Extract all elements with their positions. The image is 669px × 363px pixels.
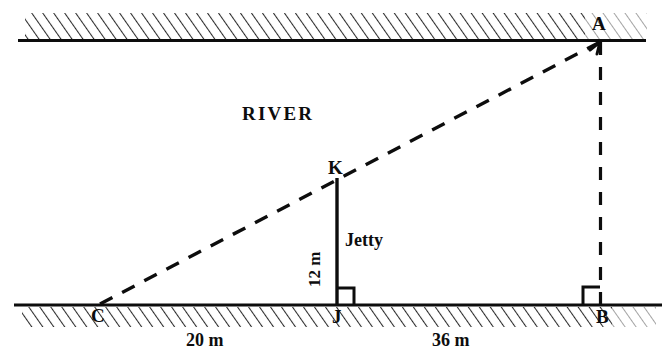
distance-label-jb: 36 m: [432, 331, 470, 349]
bottom-bank-hatching: [22, 307, 612, 327]
point-label-c: C: [91, 306, 105, 325]
river-jetty-diagram: RIVER A B C J K 12 m Jetty 20 m 36 m: [0, 0, 669, 363]
top-bank-hatching: [25, 13, 585, 40]
point-label-j: J: [332, 307, 342, 326]
jetty-label: Jetty: [345, 231, 383, 249]
point-label-k: K: [328, 158, 343, 177]
sightline-c-to-a: [100, 42, 600, 304]
bottom-bank-hatching-fade: [612, 307, 656, 327]
distance-label-cj: 20 m: [186, 331, 224, 349]
jetty-height-label: 12 m: [306, 252, 323, 287]
top-bank-group: [18, 13, 647, 41]
river-label: RIVER: [242, 104, 314, 123]
right-angle-marker-j: [337, 288, 354, 305]
right-angle-marker-b: [583, 287, 600, 305]
point-label-a: A: [592, 14, 606, 33]
point-label-b: B: [596, 307, 609, 326]
